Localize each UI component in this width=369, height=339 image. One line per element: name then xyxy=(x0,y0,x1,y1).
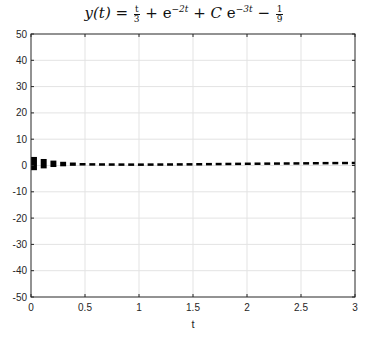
curve-dash xyxy=(80,163,86,166)
curve-dash xyxy=(264,162,270,165)
curve-dash xyxy=(109,163,115,166)
curve-dash xyxy=(342,162,348,165)
y-tick-label: 10 xyxy=(16,134,28,145)
y-tick-labels: -50-40-30-20-1001020304050 xyxy=(13,29,28,303)
curve-dash xyxy=(245,163,251,166)
x-tick-label: 2.5 xyxy=(294,302,308,313)
y-tick-label: -30 xyxy=(13,239,28,250)
curve-dash xyxy=(225,163,231,166)
curve-dash xyxy=(167,163,173,166)
y-tick-label: 40 xyxy=(16,55,28,66)
y-tick-label: 20 xyxy=(16,107,28,118)
curve-dash xyxy=(187,163,193,166)
curve-dash xyxy=(41,159,47,168)
plot-area: -50-40-30-20-1001020304050 00.511.522.53… xyxy=(0,0,369,339)
curve-dash xyxy=(293,162,299,165)
curve-dash xyxy=(70,163,76,166)
curve-dash xyxy=(235,163,241,166)
curve-dash xyxy=(157,163,163,166)
curve-dash xyxy=(99,163,105,166)
x-tick-labels: 00.511.522.53 xyxy=(28,302,358,313)
curve-dash xyxy=(177,163,183,166)
curve-dash xyxy=(60,162,66,167)
curve-dash xyxy=(255,162,261,165)
curve-dash xyxy=(148,163,154,166)
x-tick-label: 3 xyxy=(352,302,358,313)
y-tick-label: -20 xyxy=(13,213,28,224)
y-tick-label: -10 xyxy=(13,186,28,197)
curve-dash xyxy=(118,163,124,166)
x-tick-label: 1 xyxy=(136,302,142,313)
curve-dash xyxy=(50,161,56,167)
y-tick-label: -50 xyxy=(13,292,28,303)
curve-dash xyxy=(332,162,338,165)
curve-dash xyxy=(196,163,202,166)
y-tick-label: 0 xyxy=(21,160,27,171)
curve-dash xyxy=(31,157,37,170)
curve-dash xyxy=(216,163,222,166)
curve-dash xyxy=(313,162,319,165)
curve-dash xyxy=(128,163,134,166)
curve-dash xyxy=(274,162,280,165)
curve-dash xyxy=(284,162,290,165)
x-tick-label: 0 xyxy=(28,302,34,313)
curve-dash xyxy=(323,162,329,165)
curve-dash xyxy=(206,163,212,166)
y-tick-label: 30 xyxy=(16,81,28,92)
x-tick-label: 0.5 xyxy=(78,302,92,313)
y-tick-label: 50 xyxy=(16,29,28,40)
y-tick-label: -40 xyxy=(13,265,28,276)
curve-dash xyxy=(138,163,144,166)
x-tick-label: 1.5 xyxy=(186,302,200,313)
curve-dash xyxy=(303,162,309,165)
x-axis-label: t xyxy=(191,318,194,330)
curve-dash xyxy=(89,163,95,166)
x-tick-label: 2 xyxy=(244,302,250,313)
figure: y(t) = t3 + e−2t + C e−3t − 19 -50-40-30… xyxy=(0,0,369,339)
